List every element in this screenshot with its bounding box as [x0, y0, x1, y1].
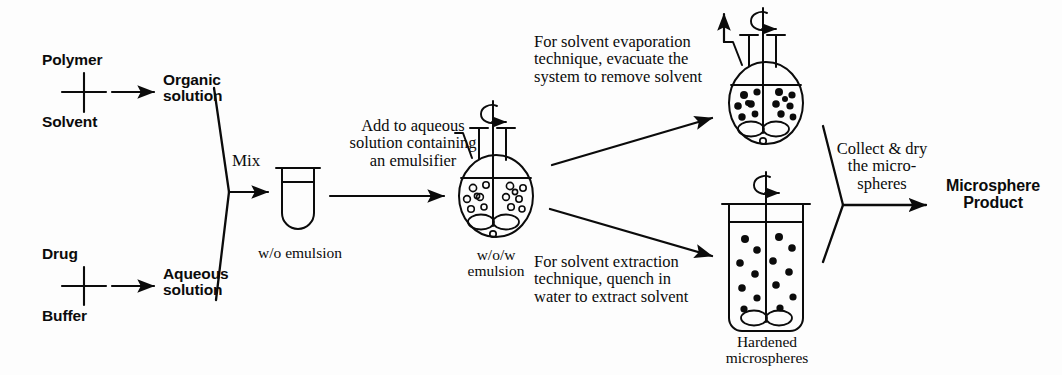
- arrow-to-evaporation: [552, 118, 712, 165]
- step-label-mix: Mix: [232, 152, 260, 170]
- evaporation-flask-microspheres: [734, 88, 796, 121]
- input-label-drug: Drug: [42, 246, 78, 262]
- input-label-solvent: Solvent: [42, 114, 97, 130]
- plus-sign-aqueous: [62, 267, 106, 305]
- node-label-organic-solution: Organic solution: [163, 72, 222, 105]
- caption-wo-emulsion: w/o emulsion: [242, 245, 358, 261]
- process-flow-diagram: Polymer Solvent Organic solution Drug Bu…: [0, 0, 1062, 375]
- caption-wow-emulsion: w/o/w emulsion: [452, 247, 540, 280]
- step-label-add-to-aqueous: Add to aqueous solution containing an em…: [318, 117, 508, 169]
- quench-beaker-vessel: [722, 172, 810, 331]
- step-label-collect-and-dry: Collect & dry the micro- spheres: [826, 140, 938, 192]
- node-label-aqueous-solution: Aqueous solution: [163, 266, 229, 299]
- caption-hardened-microspheres: Hardened microspheres: [712, 334, 822, 367]
- test-tube-vessel: [276, 168, 320, 229]
- plus-sign-organic: [62, 73, 106, 112]
- wow-flask-droplets: [464, 182, 527, 213]
- input-label-buffer: Buffer: [42, 308, 87, 324]
- arrow-to-extraction: [550, 209, 712, 256]
- input-label-polymer: Polymer: [42, 52, 102, 68]
- step-label-extraction-technique: For solvent extraction technique, quench…: [534, 253, 806, 305]
- output-label-microsphere-product: Microsphere Product: [930, 178, 1056, 212]
- step-label-evaporation-technique: For solvent evaporation technique, evacu…: [534, 33, 814, 85]
